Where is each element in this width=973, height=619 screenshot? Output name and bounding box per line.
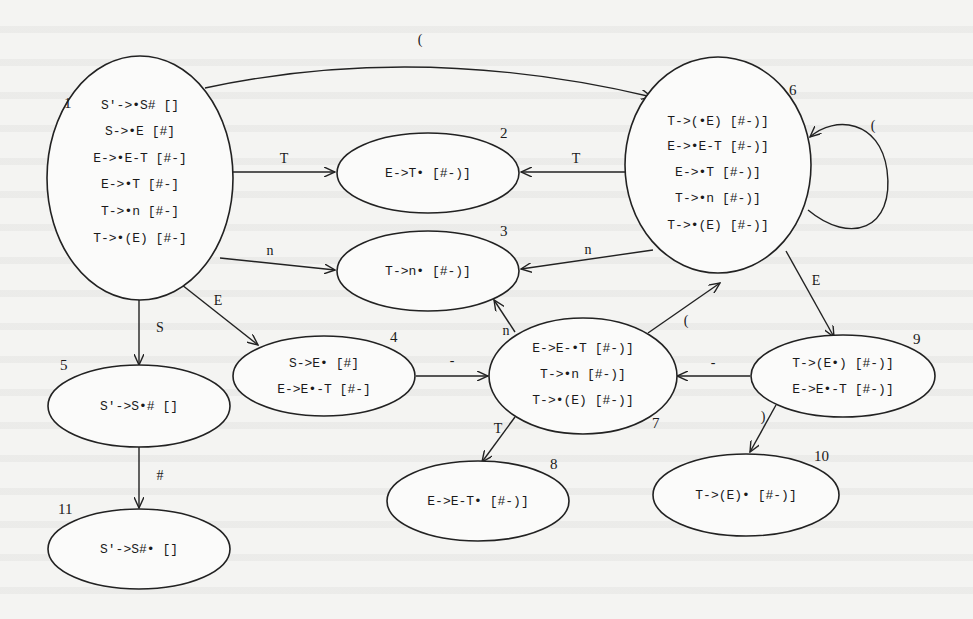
lr-item: E->E•-T [#-] bbox=[277, 382, 371, 397]
edge-5-11: # bbox=[139, 447, 164, 508]
lr-item: T->•n [#-] bbox=[101, 204, 179, 219]
edge-label: T bbox=[572, 151, 581, 166]
lr-item: T->•(E) [#-] bbox=[93, 231, 187, 246]
edge-label: n bbox=[503, 323, 510, 338]
lr-item: T->n• [#-)] bbox=[385, 264, 471, 279]
edge-1-3: n bbox=[220, 243, 335, 270]
lr1-automaton-diagram: ( T n E S # T n ( E - n bbox=[0, 0, 973, 619]
edge-label: ( bbox=[871, 118, 876, 134]
lr-item: T->•(E) [#-)] bbox=[667, 218, 768, 233]
edge-label: E bbox=[812, 273, 821, 288]
lr-item: S->•E [#] bbox=[105, 124, 175, 139]
edge-label: E bbox=[214, 293, 223, 308]
state-number: 6 bbox=[789, 82, 797, 98]
state-8: 8 E->E-T• [#-)] bbox=[387, 456, 569, 541]
lr-item: T->(E)• [#-)] bbox=[695, 488, 796, 503]
edge-1-6: ( bbox=[205, 32, 652, 97]
lr-item: E->T• [#-)] bbox=[385, 166, 471, 181]
state-number: 8 bbox=[550, 456, 558, 472]
lr-item: T->•(E) [#-)] bbox=[532, 393, 633, 408]
edge-4-7: - bbox=[416, 353, 488, 376]
lr-item: T->•n [#-)] bbox=[675, 191, 761, 206]
state-7: 7 E->E-•T [#-)] T->•n [#-)] T->•(E) [#-)… bbox=[489, 318, 677, 434]
lr-item: E->•T [#-] bbox=[101, 177, 179, 192]
edge-7-8: T bbox=[482, 417, 515, 462]
edge-label: # bbox=[157, 468, 164, 483]
state-number: 9 bbox=[913, 331, 921, 347]
state-number: 4 bbox=[390, 329, 398, 345]
edge-9-7: - bbox=[677, 355, 750, 376]
state-6: 6 T->(•E) [#-)] E->•E-T [#-)] E->•T [#-)… bbox=[625, 57, 811, 273]
edge-6-6-loop: ( bbox=[808, 118, 888, 229]
state-5: 5 S′->S•# [] bbox=[48, 357, 230, 447]
state-number: 10 bbox=[814, 448, 829, 464]
state-2: 2 E->T• [#-)] bbox=[337, 125, 519, 213]
lr-item: E->•T [#-)] bbox=[675, 165, 761, 180]
edge-label: T bbox=[280, 151, 289, 166]
state-number: 3 bbox=[500, 223, 508, 239]
edge-9-10: ) bbox=[750, 405, 776, 452]
state-3: 3 T->n• [#-)] bbox=[337, 223, 519, 311]
edge-label: S bbox=[156, 320, 164, 335]
edge-7-6: ( bbox=[648, 283, 720, 333]
lr-item: S′->S•# [] bbox=[100, 399, 178, 414]
lr-item: S′->S#• [] bbox=[100, 542, 178, 557]
state-11: 11 S′->S#• [] bbox=[48, 501, 230, 589]
edge-1-4: E bbox=[177, 281, 258, 345]
state-10: 10 T->(E)• [#-)] bbox=[653, 448, 839, 536]
edge-7-3: n bbox=[494, 300, 515, 338]
state-number: 1 bbox=[64, 95, 72, 111]
state-9: 9 T->(E•) [#-)] E->E•-T [#-)] bbox=[751, 331, 935, 417]
lr-item: E->•E-T [#-)] bbox=[667, 139, 768, 154]
state-number: 7 bbox=[652, 415, 660, 431]
edge-label: n bbox=[585, 242, 592, 257]
edge-6-3: n bbox=[521, 242, 653, 269]
lr-item: S->E• [#] bbox=[289, 356, 359, 371]
edge-label: ) bbox=[761, 409, 766, 425]
lr-item: S′->•S# [] bbox=[101, 98, 179, 113]
edge-label: ( bbox=[684, 313, 689, 329]
lr-item: E->E-T• [#-)] bbox=[427, 494, 528, 509]
edge-label: T bbox=[494, 421, 503, 436]
edge-label: ( bbox=[418, 32, 423, 48]
lr-item: T->(E•) [#-)] bbox=[792, 356, 893, 371]
lr-item: E->•E-T [#-] bbox=[93, 151, 187, 166]
lr-item: E->E•-T [#-)] bbox=[792, 382, 893, 397]
state-number: 11 bbox=[58, 501, 72, 517]
state-number: 2 bbox=[500, 125, 508, 141]
edge-6-9: E bbox=[786, 251, 834, 337]
state-4: 4 S->E• [#] E->E•-T [#-] bbox=[233, 329, 415, 416]
edge-label: - bbox=[450, 353, 455, 368]
state-1: 1 S′->•S# [] S->•E [#] E->•E-T [#-] E->•… bbox=[47, 56, 233, 300]
edge-6-2: T bbox=[521, 151, 631, 172]
edge-label: n bbox=[267, 243, 274, 258]
edge-1-2: T bbox=[232, 151, 335, 172]
edge-label: - bbox=[711, 355, 716, 370]
lr-item: T->•n [#-)] bbox=[540, 367, 626, 382]
lr-item: T->(•E) [#-)] bbox=[667, 114, 768, 129]
lr-item: E->E-•T [#-)] bbox=[532, 341, 633, 356]
state-number: 5 bbox=[60, 357, 68, 373]
edge-1-5: S bbox=[139, 300, 164, 365]
